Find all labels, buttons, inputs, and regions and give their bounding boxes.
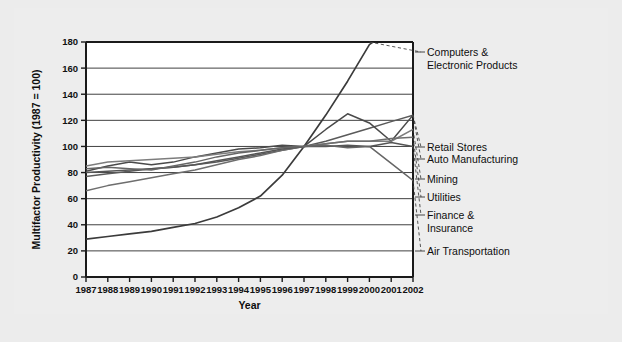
x-axis-title: Year [238,299,260,311]
x-axis-tick-label: 1995 [250,284,272,295]
y-axis-tick-label: 20 [67,245,78,256]
x-axis-tick-label: 1994 [228,284,250,295]
y-axis-tick-label: 60 [67,193,78,204]
y-axis-tick-label: 0 [73,271,78,282]
x-axis-tick-label: 1990 [141,284,162,295]
x-axis-tick-label: 1998 [315,284,336,295]
x-axis-tick-label: 1997 [293,284,314,295]
legend-label-1: Retail Stores [427,141,487,153]
legend-label-0-cont: Electronic Products [427,59,517,71]
x-axis-tick-label: 1991 [163,284,185,295]
x-axis-tick-label: 1987 [75,284,96,295]
screenshot-root: 0204060801001201401601801987198819891990… [0,0,622,342]
x-axis-tick-label: 1999 [337,284,358,295]
chart-figure: 0204060801001201401601801987198819891990… [14,8,608,314]
legend-label-3: Mining [427,173,458,185]
y-axis-tick-label: 180 [62,36,78,47]
y-axis-tick-label: 120 [62,115,78,126]
x-axis-tick-label: 1996 [272,284,293,295]
y-axis-tick-label: 80 [67,167,78,178]
x-axis-tick-label: 1992 [184,284,205,295]
legend-label-2: Auto Manufacturing [427,153,518,165]
x-axis-tick-label: 1993 [206,284,227,295]
x-axis-tick-label: 1988 [97,284,118,295]
x-axis-tick-label: 2000 [359,284,380,295]
y-axis-tick-label: 100 [62,141,78,152]
legend-label-0: Computers & [427,46,488,58]
leader-line-5 [413,146,421,215]
y-axis-title: Multifactor Productivity (1987 = 100) [30,69,42,249]
legend-label-6: Air Transportation [427,245,510,257]
line-chart: 0204060801001201401601801987198819891990… [14,8,608,314]
legend-label-4: Utilities [427,191,461,203]
legend-label-5: Finance & [427,209,474,221]
x-axis-tick-label: 1989 [119,284,140,295]
y-axis-tick-label: 140 [62,89,78,100]
y-axis-tick-label: 40 [67,219,78,230]
leader-line-1 [413,115,421,147]
legend-label-5-cont: Insurance [427,222,473,234]
x-axis-tick-label: 2002 [402,284,423,295]
plot-area-background [86,42,413,277]
y-axis-tick-label: 160 [62,63,78,74]
x-axis-tick-label: 2001 [381,284,403,295]
